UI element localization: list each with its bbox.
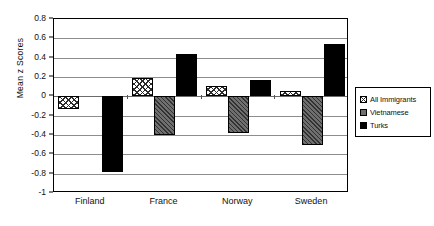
gridline — [54, 154, 347, 155]
y-axis-tick-mark — [49, 153, 53, 154]
bar-finland-all-immigrants — [58, 96, 79, 109]
gridline — [54, 77, 347, 78]
y-axis-tick-label: -0.4 — [0, 129, 46, 139]
y-axis-tick-label: -0.6 — [0, 148, 46, 158]
chart-legend: All ImmigrantsVietnameseTurks — [355, 87, 431, 137]
y-axis-tick-mark — [49, 192, 53, 193]
legend-item-label: All Immigrants — [370, 95, 416, 104]
y-axis-tick-mark — [49, 114, 53, 115]
y-axis-tick-label: -0.8 — [0, 168, 46, 178]
gridline — [54, 38, 347, 39]
bar-finland-turks — [102, 96, 123, 171]
x-axis-tick-label: France — [150, 196, 178, 206]
category-separator-tick — [201, 95, 202, 99]
bar-sweden-turks — [324, 44, 345, 96]
y-axis-tick-label: 0.6 — [0, 32, 46, 42]
legend-item-vietnamese[interactable]: Vietnamese — [360, 106, 427, 118]
bar-norway-vietnamese — [228, 96, 249, 133]
legend-item-turks[interactable]: Turks — [360, 119, 427, 131]
x-axis-tick-label: Finland — [75, 196, 105, 206]
bar-chart-figure: Mean z Scores 0.80.60.40.20-0.2-0.4-0.6-… — [0, 0, 434, 226]
plot-inner — [54, 19, 347, 191]
legend-item-label: Turks — [370, 121, 388, 130]
bar-sweden-vietnamese — [302, 96, 323, 144]
x-axis-tick-label: Norway — [222, 196, 253, 206]
y-axis-tick-label: 0.4 — [0, 52, 46, 62]
bar-sweden-all-immigrants — [280, 91, 301, 96]
bar-norway-turks — [250, 80, 271, 96]
legend-item-all-immigrants[interactable]: All Immigrants — [360, 93, 427, 105]
y-axis-tick-mark — [49, 37, 53, 38]
legend-swatch-icon — [360, 122, 367, 129]
legend-swatch-icon — [360, 109, 367, 116]
bar-france-vietnamese — [154, 96, 175, 135]
y-axis-tick-mark — [49, 76, 53, 77]
y-axis-tick-label: 0.2 — [0, 71, 46, 81]
legend-item-label: Vietnamese — [370, 108, 408, 117]
legend-swatch-icon — [360, 96, 367, 103]
y-axis-tick-label: 0 — [0, 90, 46, 100]
bar-france-turks — [176, 54, 197, 97]
x-axis-tick-label: Sweden — [295, 196, 328, 206]
y-axis-tick-mark — [49, 172, 53, 173]
category-separator-tick — [274, 95, 275, 99]
y-axis-tick-label: -1 — [0, 187, 46, 197]
y-axis-tick-mark — [49, 95, 53, 96]
y-axis-tick-mark — [49, 134, 53, 135]
y-axis-tick-mark — [49, 18, 53, 19]
y-axis-tick-mark — [49, 56, 53, 57]
bar-france-all-immigrants — [132, 78, 153, 96]
category-separator-tick — [127, 95, 128, 99]
plot-area — [53, 18, 348, 192]
gridline — [54, 174, 347, 175]
bar-norway-all-immigrants — [206, 86, 227, 97]
y-axis-tick-label: -0.2 — [0, 110, 46, 120]
y-axis-tick-label: 0.8 — [0, 13, 46, 23]
gridline — [54, 58, 347, 59]
